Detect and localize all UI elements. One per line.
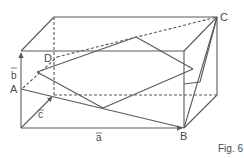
point-a-label: A (10, 83, 18, 95)
figure-caption: Fig. 6 (218, 143, 243, 154)
cuboid-diagram: A B C D b c a Fig. 6 (0, 0, 244, 158)
section-line-4 (103, 69, 193, 108)
point-c-label: C (220, 11, 228, 23)
vector-b-label: b (11, 70, 17, 81)
top-left-edge (21, 17, 54, 51)
point-b-label: B (180, 130, 187, 142)
line-c-right (200, 17, 217, 82)
vector-c-label: c (38, 109, 43, 120)
vector-c-arrow (21, 97, 52, 128)
vector-a-label: a (96, 132, 102, 143)
point-d-label: D (44, 52, 52, 64)
